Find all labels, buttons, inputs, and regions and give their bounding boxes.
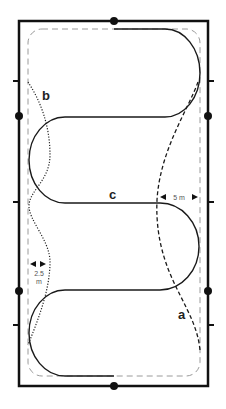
dot-bottom bbox=[110, 382, 118, 390]
label-b: b bbox=[42, 88, 50, 103]
measure-2-5m-value: 2.5 bbox=[34, 270, 44, 277]
dot-top bbox=[110, 17, 118, 25]
dot-left-upper bbox=[15, 112, 23, 120]
measure-5m: 5 m bbox=[160, 194, 198, 201]
path-b-serpentine bbox=[28, 82, 50, 345]
dot-right-upper bbox=[204, 112, 212, 120]
label-c: c bbox=[109, 187, 116, 202]
measure-2-5m: 2.5 m bbox=[30, 261, 46, 285]
measure-2-5m-unit: m bbox=[36, 278, 42, 285]
measure-5m-label: 5 m bbox=[173, 194, 185, 201]
arrow-right-icon bbox=[40, 261, 46, 267]
dot-right-lower bbox=[204, 287, 212, 295]
arrow-left-icon bbox=[30, 261, 36, 267]
arena-diagram: 5 m 2.5 m b c a bbox=[0, 0, 226, 409]
path-c-serpentine bbox=[29, 29, 200, 376]
arrow-left-icon bbox=[160, 194, 166, 200]
arrow-right-icon bbox=[192, 194, 198, 200]
dot-left-lower bbox=[15, 287, 23, 295]
label-a: a bbox=[178, 307, 186, 322]
